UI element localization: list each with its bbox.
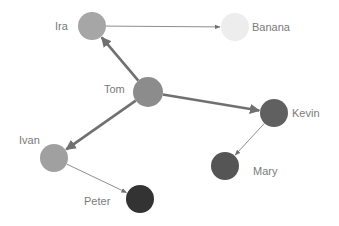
node-label-peter: Peter xyxy=(84,195,110,207)
node-kevin[interactable] xyxy=(260,99,288,127)
node-tom[interactable] xyxy=(133,77,163,107)
edge-ira-to-banana xyxy=(106,26,220,27)
node-label-banana: Banana xyxy=(252,21,290,33)
node-label-tom: Tom xyxy=(104,83,125,95)
edge-tom-to-ira xyxy=(102,37,139,80)
edge-kevin-to-mary xyxy=(235,123,264,155)
node-ira[interactable] xyxy=(78,12,106,40)
edge-ivan-to-peter xyxy=(67,164,127,193)
nodes-layer xyxy=(40,12,288,213)
node-ivan[interactable] xyxy=(40,144,68,172)
node-label-mary: Mary xyxy=(253,165,277,177)
edge-tom-to-kevin xyxy=(163,94,259,110)
graph-canvas xyxy=(0,0,339,226)
node-label-ivan: Ivan xyxy=(19,134,40,146)
node-banana[interactable] xyxy=(221,13,249,41)
node-label-ira: Ira xyxy=(55,20,68,32)
edge-tom-to-ivan xyxy=(66,101,135,150)
node-label-kevin: Kevin xyxy=(292,107,320,119)
node-mary[interactable] xyxy=(211,152,239,180)
node-peter[interactable] xyxy=(126,185,154,213)
